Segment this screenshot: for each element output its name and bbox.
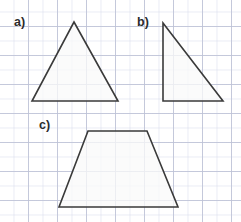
shape-label-b: b): [137, 16, 149, 29]
shape-layer: [0, 0, 241, 222]
geometry-worksheet: a) b) c): [0, 0, 241, 222]
shape-label-a: a): [14, 16, 25, 29]
shape-label-c: c): [39, 119, 50, 132]
shape-triangle-b: [163, 23, 223, 101]
shape-trapezoid-c: [59, 131, 178, 207]
shape-triangle-a: [32, 22, 118, 101]
